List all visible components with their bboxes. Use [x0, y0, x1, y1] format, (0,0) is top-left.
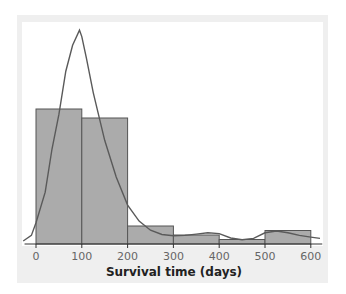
x-axis-ticks: 0100200300400500600 [33, 244, 322, 263]
histogram-bar [173, 235, 219, 244]
x-tick-label: 600 [300, 250, 321, 263]
x-tick-label: 200 [117, 250, 138, 263]
x-axis-title: Survival time (days) [106, 265, 242, 279]
x-tick-label: 400 [209, 250, 230, 263]
x-tick-label: 0 [33, 250, 40, 263]
histogram-chart: 0100200300400500600 Survival time (days) [0, 0, 346, 294]
histogram-bars [36, 109, 311, 244]
x-tick-label: 500 [255, 250, 276, 263]
x-tick-label: 100 [71, 250, 92, 263]
x-tick-label: 300 [163, 250, 184, 263]
histogram-bar [82, 118, 128, 244]
histogram-bar [36, 109, 82, 244]
